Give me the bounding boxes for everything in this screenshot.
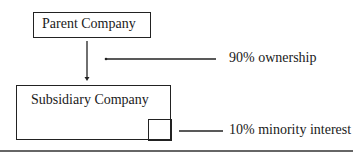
subsidiary-company-box: Subsidiary Company: [16, 85, 171, 140]
parent-company-label: Parent Company: [42, 16, 136, 32]
minority-interest-square: [148, 119, 172, 141]
minority-annotation: 10% minority interest: [229, 122, 351, 138]
pointer-dot-icon: [105, 58, 108, 61]
ownership-annotation: 90% ownership: [229, 50, 317, 66]
arrow-head-icon: [85, 77, 90, 81]
parent-company-box: Parent Company: [33, 12, 151, 38]
subsidiary-company-label: Subsidiary Company: [31, 92, 149, 108]
